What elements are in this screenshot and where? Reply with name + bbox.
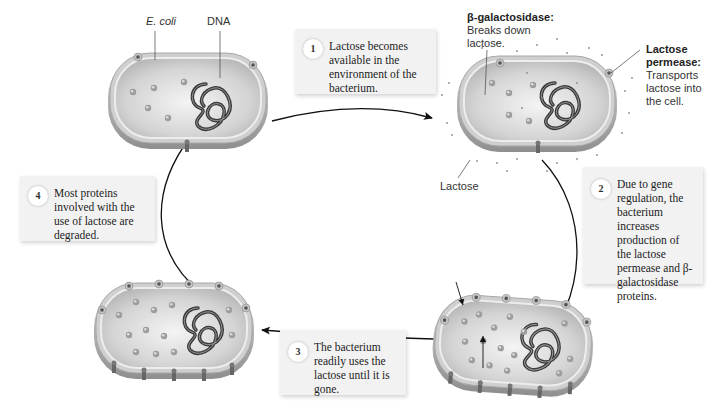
cell-initial: [108, 53, 268, 152]
ecoli-label: E. coli: [146, 15, 176, 28]
arrow-step4: [161, 136, 200, 292]
cell-using-lactose: [430, 290, 597, 402]
beta-galactosidase-desc-1: Breaks down: [467, 24, 554, 37]
step-2-text: Due to gene regulation, the bacterium in…: [617, 178, 692, 302]
cell-lactose-gone: [94, 280, 254, 381]
arrow-step1: [272, 109, 432, 121]
cell-lactose-available: [441, 38, 633, 172]
permease-title-1: Lactose: [646, 43, 688, 55]
step-3-number: 3: [288, 342, 308, 362]
step-2-box: 2 Due to gene regulation, the bacterium …: [583, 167, 703, 284]
step-1-text: Lactose becomes available in the environ…: [329, 40, 417, 94]
permease-desc-2: lactose into: [646, 82, 702, 95]
step-4-number: 4: [28, 186, 48, 206]
permease-desc-1: Transports: [646, 69, 702, 82]
lac-cycle-diagram: E. coli DNA β-galactosidase: Breaks down…: [0, 0, 716, 409]
step-1-box: 1 Lactose becomes available in the envir…: [295, 29, 436, 94]
step-2-number: 2: [591, 179, 611, 199]
beta-galactosidase-label: β-galactosidase: Breaks down lactose.: [467, 11, 554, 50]
beta-galactosidase-title: β-galactosidase:: [467, 11, 554, 23]
beta-galactosidase-desc-2: lactose.: [467, 37, 554, 50]
step-3-text: The bacterium readily uses the lactose u…: [314, 341, 390, 395]
lactose-permease-label: Lactose permease: Transports lactose int…: [646, 43, 702, 108]
step-1-number: 1: [303, 39, 323, 59]
permease-desc-3: the cell.: [646, 95, 702, 108]
step-4-box: 4 Most proteins involved with the use of…: [20, 176, 155, 241]
dna-label: DNA: [207, 15, 230, 28]
permease-title-2: permease:: [646, 56, 701, 68]
step-3-box: 3 The bacterium readily uses the lactose…: [280, 330, 406, 395]
step-4-text: Most proteins involved with the use of l…: [54, 187, 135, 241]
lactose-label: Lactose: [440, 180, 479, 193]
